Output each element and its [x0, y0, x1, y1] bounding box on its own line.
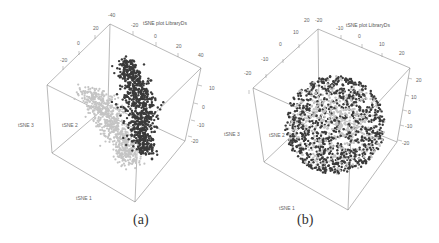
tick-right-1-a: 10: [209, 85, 215, 91]
tick-right-3-a: -10: [197, 122, 204, 128]
plot-title-b: tSNE plot LibraryDs: [346, 22, 390, 28]
scatter-3d-plot-a: tSNE plot LibraryDs -40 -20 0 20 -20 0 2…: [0, 0, 220, 243]
tick-top-1-b: -10: [336, 25, 343, 31]
caption-a: (a): [133, 212, 149, 228]
panel-a: tSNE plot LibraryDs -40 -20 0 20 -20 0 2…: [0, 0, 220, 243]
tick-right-5-b: -20: [402, 140, 409, 146]
tick-right-4-a: -20: [191, 138, 198, 144]
tick-top-right-a: 40: [198, 52, 204, 58]
tick-left-2-b: -10: [261, 56, 268, 62]
axis-label-x-a: tSNE 1: [76, 195, 92, 201]
tick-top-3-b: 10: [379, 41, 385, 47]
axis-label-y-a: tSNE 2: [62, 122, 78, 128]
tick-left-2-a: 0: [77, 40, 80, 46]
plot-title-a: tSNE plot LibraryDs: [143, 20, 187, 26]
tick-top-3-a: 20: [176, 43, 182, 49]
axis-label-x-b: tSNE 1: [279, 205, 295, 211]
tick-right-2-a: 0: [202, 104, 205, 110]
axis-label-z-b: tSNE 3: [224, 131, 240, 137]
tick-top-1-a: -20: [131, 22, 138, 28]
bounding-box-b: [253, 29, 410, 210]
scatter-points-a: [73, 55, 164, 170]
tick-right-4-b: -10: [405, 123, 412, 129]
tick-right-3-b: 0: [408, 109, 411, 115]
tick-top-corner-2-b: -20: [315, 17, 322, 23]
tick-top-corner-a: -40: [108, 12, 115, 18]
axis-label-y-b: tSNE 2: [269, 132, 285, 138]
tick-top-2-b: 0: [358, 33, 361, 39]
tick-left-1-a: -20: [60, 57, 67, 63]
scatter-3d-plot-b: tSNE plot LibraryDs 20 -20 -20 -10 0 10 …: [219, 0, 439, 243]
tick-right-1-b: 20: [416, 77, 422, 83]
caption-b: (b): [297, 212, 313, 228]
panel-b: tSNE plot LibraryDs 20 -20 -20 -10 0 10 …: [219, 0, 439, 243]
tick-top-corner-1-b: 20: [304, 17, 310, 23]
tick-left-3-b: 0: [279, 41, 282, 47]
axis-label-z-a: tSNE 3: [18, 122, 34, 128]
tick-left-3-a: 20: [93, 25, 99, 31]
tick-top-2-a: 0: [154, 33, 157, 39]
tick-top-right-b: 20: [399, 50, 405, 56]
tick-right-2-b: 10: [411, 94, 417, 100]
tick-left-1-b: -20: [244, 70, 251, 76]
tick-left-4-b: 10: [293, 29, 299, 35]
